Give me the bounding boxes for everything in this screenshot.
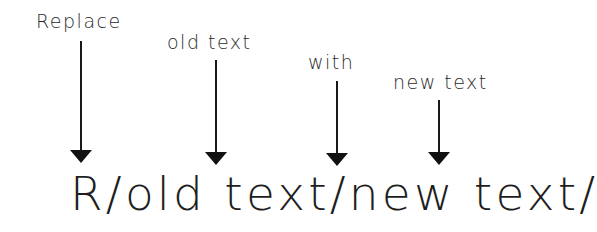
arrowhead bbox=[70, 150, 92, 163]
arrow-shaft bbox=[215, 60, 217, 155]
command-syntax: R/old text/new text/ bbox=[70, 170, 597, 217]
arrowhead bbox=[428, 152, 450, 165]
label-new-text: new text bbox=[393, 73, 488, 92]
replace-command-diagram: Replace old text with new text R/old tex… bbox=[0, 0, 597, 232]
label-replace: Replace bbox=[36, 12, 122, 31]
arrow-down-icon bbox=[69, 41, 93, 163]
label-old-text: old text bbox=[167, 33, 252, 52]
arrow-shaft bbox=[336, 81, 338, 156]
arrow-down-icon bbox=[204, 60, 228, 165]
arrow-shaft bbox=[80, 41, 82, 153]
arrowhead bbox=[326, 153, 348, 166]
arrow-down-icon bbox=[427, 100, 451, 165]
arrow-shaft bbox=[438, 100, 440, 155]
arrow-down-icon bbox=[325, 81, 349, 166]
label-with: with bbox=[308, 53, 354, 72]
arrowhead bbox=[205, 152, 227, 165]
